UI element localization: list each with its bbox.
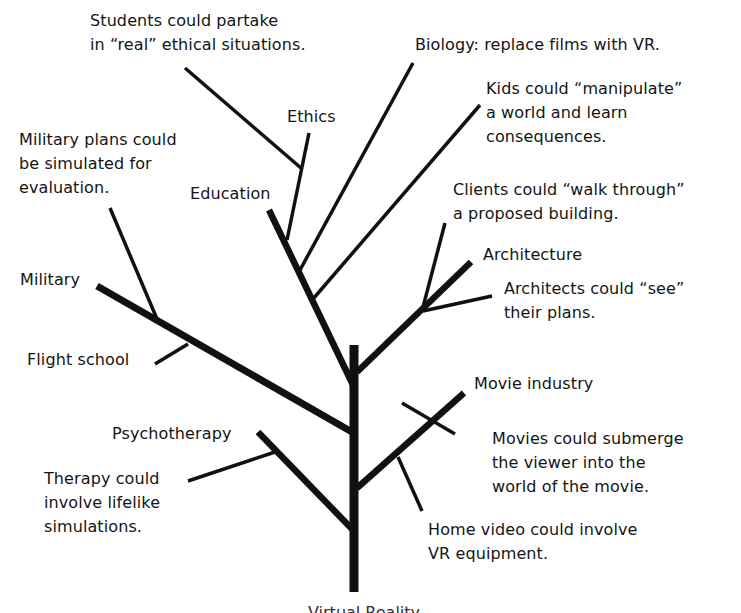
twig-therapy [188, 452, 275, 481]
label-military-plans: Military plans could be simulated for ev… [19, 128, 177, 200]
twig-home-video [398, 457, 422, 511]
label-architects: Architects could “see” their plans. [504, 277, 684, 325]
label-kids: Kids could “manipulate” a world and lear… [486, 77, 682, 149]
label-flight-school: Flight school [27, 348, 129, 372]
label-root: Virtual Reality [308, 601, 420, 613]
label-movies: Movies could submerge the viewer into th… [492, 427, 684, 499]
twig-biology [300, 63, 413, 270]
label-clients: Clients could “walk through” a proposed … [453, 178, 685, 226]
label-biology: Biology: replace films with VR. [415, 33, 660, 57]
branch-architecture [357, 262, 471, 372]
twig-military-plans [110, 208, 157, 319]
label-ethics: Ethics [287, 105, 336, 129]
twig-students [185, 68, 301, 168]
label-therapy: Therapy could involve lifelike simulatio… [44, 467, 160, 539]
twig-ethics [287, 133, 309, 240]
label-architecture: Architecture [483, 243, 582, 267]
label-military: Military [20, 268, 80, 292]
label-movie-industry: Movie industry [474, 372, 593, 396]
label-students: Students could partake in “real” ethical… [90, 9, 306, 57]
label-psychotherapy: Psychotherapy [112, 422, 231, 446]
label-home-video: Home video could involve VR equipment. [428, 518, 638, 566]
twig-flight-school [155, 344, 188, 364]
label-education: Education [190, 182, 271, 206]
branch-education [269, 210, 353, 385]
branch-psychotherapy [258, 432, 353, 530]
